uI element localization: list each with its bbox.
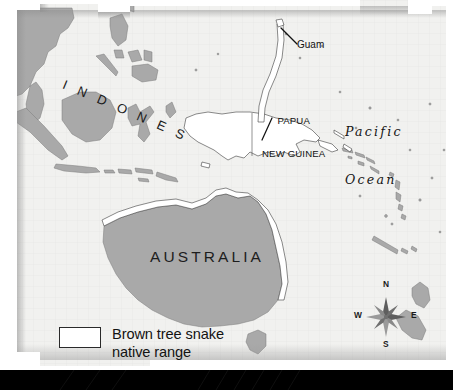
compass-rose: N E S W (350, 279, 422, 355)
land-visayas2 (144, 50, 152, 62)
legend-label: Brown tree snake native range (112, 325, 224, 362)
compass-west-label: W (354, 310, 362, 320)
legend-label-line2: native range (112, 343, 224, 361)
map-legend: Brown tree snake native range (59, 325, 224, 362)
land-lesser-sunda-2 (118, 169, 132, 174)
legend-swatch-native-range (59, 327, 101, 348)
compass-east-label: E (411, 310, 417, 320)
map-plate: I N D O N E S I A AUSTRALIA (0, 0, 453, 368)
compass-south-label: S (383, 339, 389, 349)
legend-label-line1: Brown tree snake (112, 325, 224, 343)
bottom-black-bar (0, 370, 453, 390)
land-lesser-sunda-1 (104, 170, 115, 173)
bottom-bar-texture (0, 370, 453, 390)
map-figure: I N D O N E S I A AUSTRALIA (0, 0, 453, 390)
land-mindoro (114, 50, 124, 58)
compass-north-label: N (383, 279, 389, 289)
